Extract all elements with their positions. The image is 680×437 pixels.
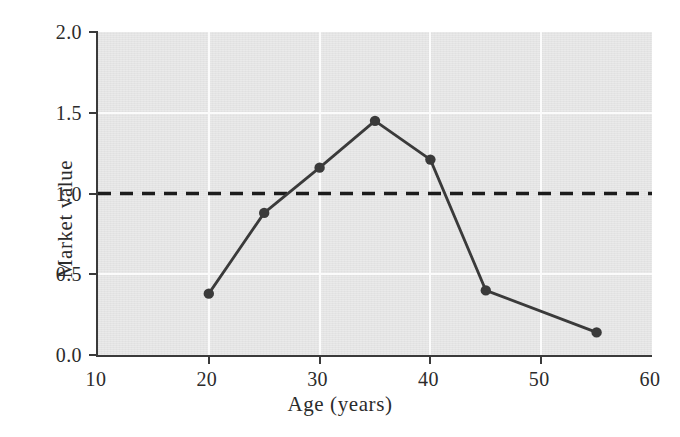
x-tick-label: 60 bbox=[620, 369, 680, 389]
y-tick-mark bbox=[89, 112, 98, 114]
x-tick-label: 30 bbox=[288, 369, 348, 389]
x-tick-mark bbox=[319, 355, 321, 364]
x-tick-label: 40 bbox=[398, 369, 458, 389]
data-line-group bbox=[209, 121, 597, 333]
series-layer bbox=[98, 32, 652, 355]
data-point bbox=[370, 116, 380, 126]
y-tick-label: 0.5 bbox=[56, 264, 82, 284]
data-marker-group bbox=[204, 116, 602, 338]
data-point bbox=[259, 208, 269, 218]
y-tick-mark bbox=[89, 273, 98, 275]
x-tick-label: 50 bbox=[509, 369, 569, 389]
y-tick-label: 1.0 bbox=[56, 184, 82, 204]
data-point bbox=[314, 162, 324, 172]
y-tick-mark bbox=[89, 193, 98, 195]
y-tick-label: 2.0 bbox=[56, 22, 82, 42]
plot-area bbox=[96, 32, 652, 357]
y-tick-mark bbox=[89, 31, 98, 33]
y-tick-label: 1.5 bbox=[56, 103, 82, 123]
x-tick-mark bbox=[429, 355, 431, 364]
data-line bbox=[209, 121, 597, 333]
x-tick-mark bbox=[540, 355, 542, 364]
x-tick-label: 10 bbox=[66, 369, 126, 389]
data-point bbox=[591, 327, 601, 337]
x-tick-mark bbox=[208, 355, 210, 364]
data-point bbox=[425, 154, 435, 164]
x-tick-label: 20 bbox=[177, 369, 237, 389]
y-tick-label: 0.0 bbox=[56, 345, 82, 365]
caption-partial bbox=[30, 424, 662, 437]
data-point bbox=[204, 288, 214, 298]
y-tick-mark bbox=[89, 354, 98, 356]
chart-figure: Market value 0.00.51.01.52.0 10203040506… bbox=[0, 0, 680, 437]
data-point bbox=[481, 285, 491, 295]
x-axis-title: Age (years) bbox=[0, 392, 680, 417]
y-axis-title: Market value bbox=[53, 159, 78, 278]
